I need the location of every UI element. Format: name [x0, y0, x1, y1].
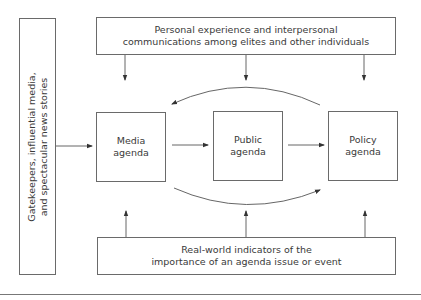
bottom-divider: [0, 294, 421, 295]
policy-agenda-line1: Policy: [345, 134, 381, 146]
real-world-line2: importance of an agenda issue or event: [151, 256, 341, 268]
gatekeepers-line2: and spectacular news stories: [38, 22, 50, 272]
media-agenda-box: Media agenda: [96, 112, 166, 182]
media-agenda-line1: Media: [113, 135, 149, 147]
gatekeepers-line1: Gatekeepers, influential media,: [26, 22, 38, 272]
personal-experience-box: Personal experience and interpersonal co…: [96, 17, 396, 55]
policy-agenda-line2: agenda: [345, 146, 381, 158]
personal-experience-line2: communications among elites and other in…: [123, 36, 369, 48]
gatekeepers-label: Gatekeepers, influential media, and spec…: [26, 22, 50, 272]
real-world-indicators-box: Real-world indicators of the importance …: [97, 237, 396, 275]
gatekeepers-box: Gatekeepers, influential media, and spec…: [19, 18, 56, 275]
personal-experience-line1: Personal experience and interpersonal: [123, 24, 369, 36]
public-agenda-box: Public agenda: [213, 111, 283, 181]
public-agenda-line1: Public: [230, 134, 266, 146]
public-agenda-line2: agenda: [230, 146, 266, 158]
policy-agenda-box: Policy agenda: [328, 111, 398, 181]
media-agenda-line2: agenda: [113, 147, 149, 159]
real-world-line1: Real-world indicators of the: [151, 244, 341, 256]
